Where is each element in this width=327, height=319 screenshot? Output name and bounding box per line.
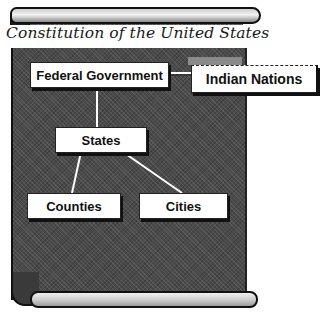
connector-states-cities (123, 152, 182, 193)
node-states: States (55, 127, 147, 153)
node-federal-government: Federal Government (30, 62, 169, 88)
connector-states-counties (72, 152, 81, 193)
node-counties: Counties (27, 193, 121, 219)
connector-lines (0, 0, 327, 319)
node-indian-nations: Indian Nations (191, 65, 318, 93)
node-cities: Cities (139, 193, 228, 219)
